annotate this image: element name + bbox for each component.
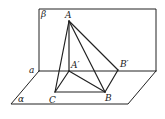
label-A: A [64, 10, 72, 20]
segment-B-prime-B [105, 70, 118, 92]
label-line-a: a [29, 65, 34, 75]
label-beta: β [40, 9, 46, 19]
geometry-diagram: β A a A′ B′ C B α [0, 0, 165, 119]
label-alpha: α [18, 94, 24, 104]
plane-beta [39, 9, 156, 71]
label-C: C [49, 95, 56, 105]
plane-alpha [11, 71, 156, 104]
label-B-prime: B′ [119, 59, 129, 69]
label-A-prime: A′ [70, 60, 80, 70]
label-B: B [104, 93, 112, 103]
